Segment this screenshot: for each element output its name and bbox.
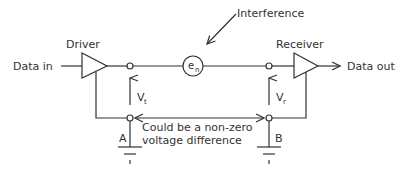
data-out-label: Data out xyxy=(347,60,395,73)
node-a-icon xyxy=(127,115,133,121)
vr-subscript: r xyxy=(283,98,286,106)
node-t-icon xyxy=(127,63,133,69)
node-r-icon xyxy=(266,63,272,69)
receiver-label: Receiver xyxy=(276,38,324,51)
noise-source-subscript: n xyxy=(195,66,199,74)
voltage-difference-label-line2: voltage difference xyxy=(142,134,242,147)
driver-ground-wire xyxy=(96,72,127,118)
voltage-difference-label-line1: Could be a non-zero xyxy=(142,121,253,134)
interference-label: Interference xyxy=(237,7,305,20)
driver-amplifier-icon xyxy=(82,53,107,78)
node-a-label: A xyxy=(119,132,127,145)
node-b-label: B xyxy=(275,132,283,145)
noise-source-label: e xyxy=(188,60,194,71)
node-b-icon xyxy=(266,115,272,121)
vt-subscript: t xyxy=(144,98,147,106)
data-in-label: Data in xyxy=(13,60,53,73)
driver-label: Driver xyxy=(66,38,100,51)
interference-arrow-icon xyxy=(207,14,236,44)
ground-loop-diagram: e n Driver Receiver Data in Data out Int… xyxy=(0,0,404,178)
